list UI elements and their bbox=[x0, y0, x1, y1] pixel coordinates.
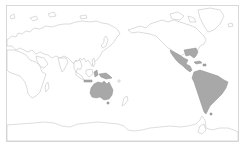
sumatra-outline bbox=[76, 72, 84, 80]
india-outline bbox=[58, 58, 68, 72]
greenland-outline bbox=[198, 8, 224, 32]
novaya-zemlya-outline bbox=[30, 16, 38, 21]
region-new-guinea bbox=[99, 73, 112, 79]
new-siberian-islands-outline bbox=[80, 15, 87, 19]
map-canvas bbox=[0, 0, 246, 144]
region-java bbox=[84, 80, 92, 82]
region-tasmania bbox=[107, 102, 109, 104]
region-hispaniola bbox=[203, 64, 206, 66]
pacific-islands-outline bbox=[118, 80, 120, 82]
baffin-outline bbox=[188, 16, 196, 22]
svalbard-outline bbox=[10, 14, 15, 19]
iceland-outline bbox=[228, 23, 233, 27]
region-caribbean bbox=[194, 61, 202, 64]
se-asia-outline bbox=[74, 60, 82, 72]
region-south-america bbox=[192, 70, 228, 114]
severnaya-zemlya-outline bbox=[48, 12, 56, 17]
borneo-outline bbox=[86, 69, 93, 77]
arctic-archipelago-outline bbox=[170, 12, 184, 20]
region-australia bbox=[90, 81, 113, 100]
region-falklands bbox=[210, 113, 212, 115]
world-map bbox=[0, 0, 246, 144]
region-southeastern-us bbox=[184, 48, 198, 58]
madagascar-outline bbox=[45, 82, 49, 92]
region-eastern-indonesia bbox=[94, 70, 98, 77]
new-zealand-outline bbox=[122, 96, 128, 106]
